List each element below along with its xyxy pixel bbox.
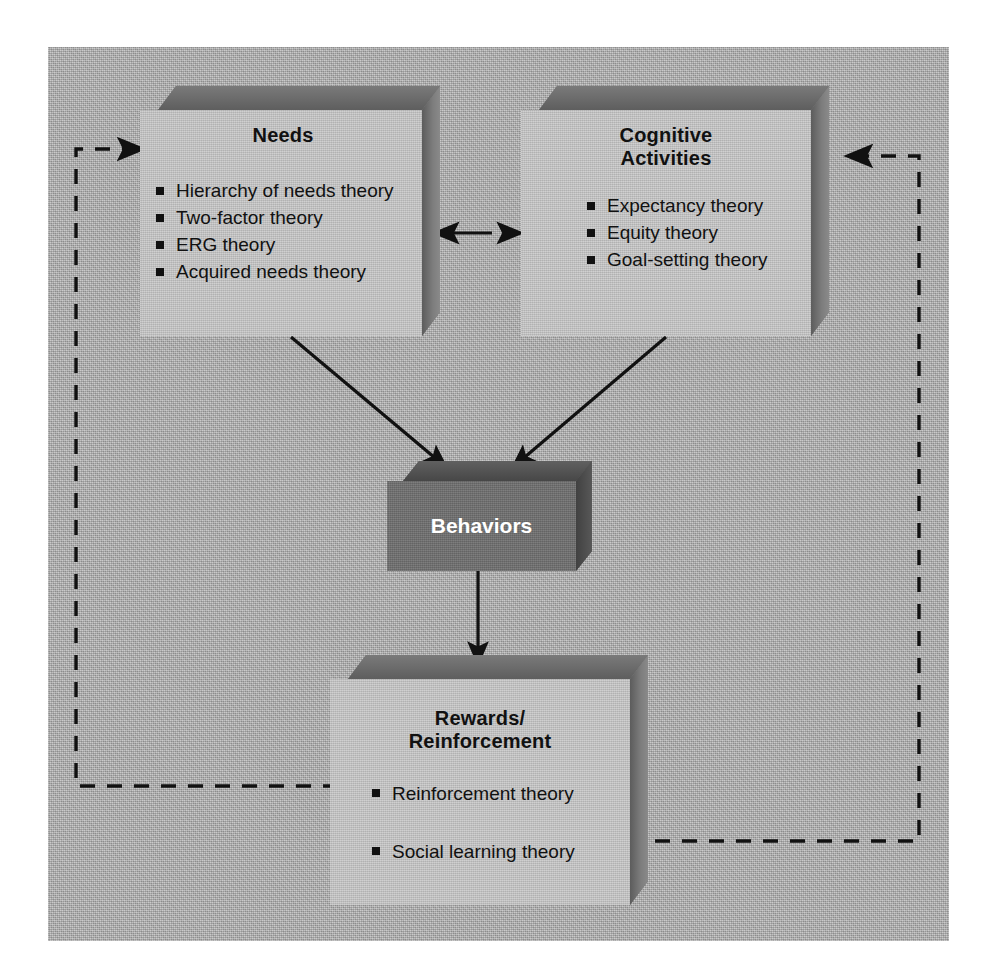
square-bullet-icon (372, 789, 380, 797)
square-bullet-icon (156, 268, 164, 276)
needs-box-title: Needs (154, 124, 412, 147)
needs-box-side-face (422, 86, 440, 336)
cognitive-box-top-face (539, 86, 829, 110)
needs-box-content: Needs Hierarchy of needs theory Two-fact… (140, 110, 422, 336)
behaviors-box-top-face (403, 461, 592, 481)
list-item: Two-factor theory (154, 204, 412, 231)
list-item: Goal-setting theory (585, 246, 801, 273)
list-item: Social learning theory (370, 837, 620, 867)
needs-box-top-face (158, 86, 440, 110)
list-item-label: Two-factor theory (176, 207, 323, 228)
needs-box[interactable]: Needs Hierarchy of needs theory Two-fact… (140, 86, 440, 336)
square-bullet-icon (587, 229, 595, 237)
list-item-label: Social learning theory (392, 841, 575, 862)
list-item-label: Reinforcement theory (392, 783, 574, 804)
behaviors-box[interactable]: Behaviors (387, 461, 592, 571)
rewards-box-title: Rewards/ Reinforcement (340, 707, 620, 753)
list-item: Reinforcement theory (370, 779, 620, 809)
cognitive-box-bullet-list: Expectancy theory Equity theory Goal-set… (531, 192, 801, 273)
square-bullet-icon (156, 214, 164, 222)
list-item: ERG theory (154, 231, 412, 258)
behaviors-box-title: Behaviors (431, 514, 533, 538)
rewards-reinforcement-box[interactable]: Rewards/ Reinforcement Reinforcement the… (330, 655, 648, 905)
square-bullet-icon (156, 187, 164, 195)
list-item: Acquired needs theory (154, 258, 412, 285)
rewards-box-bullet-list: Reinforcement theory Social learning the… (340, 779, 620, 867)
list-item-label: Acquired needs theory (176, 261, 366, 282)
rewards-box-side-face (630, 655, 648, 905)
rewards-box-content: Rewards/ Reinforcement Reinforcement the… (330, 679, 630, 905)
square-bullet-icon (156, 241, 164, 249)
square-bullet-icon (587, 256, 595, 264)
list-item-label: Goal-setting theory (607, 249, 768, 270)
list-item-label: Hierarchy of needs theory (176, 180, 394, 201)
list-item-label: Equity theory (607, 222, 718, 243)
diagram-canvas: Needs Hierarchy of needs theory Two-fact… (0, 0, 989, 978)
behaviors-box-content: Behaviors (387, 481, 576, 571)
needs-box-bullet-list: Hierarchy of needs theory Two-factor the… (154, 177, 412, 285)
square-bullet-icon (587, 202, 595, 210)
cognitive-box-content: Cognitive Activities Expectancy theory E… (521, 110, 811, 336)
cognitive-activities-box[interactable]: Cognitive Activities Expectancy theory E… (521, 86, 829, 336)
list-item: Equity theory (585, 219, 801, 246)
list-item-label: ERG theory (176, 234, 275, 255)
cognitive-box-side-face (811, 86, 829, 336)
square-bullet-icon (372, 847, 380, 855)
rewards-box-top-face (348, 655, 648, 679)
list-item: Expectancy theory (585, 192, 801, 219)
cognitive-box-title: Cognitive Activities (531, 124, 801, 170)
list-item: Hierarchy of needs theory (154, 177, 412, 204)
list-item-label: Expectancy theory (607, 195, 763, 216)
